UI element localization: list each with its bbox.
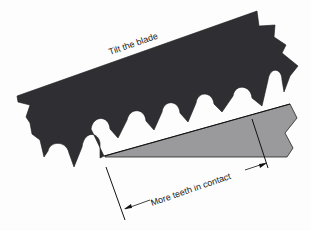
saw-blade-diagram: Tilt the blade More teeth in contact (0, 0, 311, 231)
left-extension-line (106, 167, 125, 220)
dimension-label: More teeth in contact (149, 171, 232, 208)
arrowhead-left-icon (124, 204, 132, 209)
arrowhead-right-icon (259, 163, 267, 168)
diagram-svg: Tilt the blade More teeth in contact (0, 0, 311, 231)
workpiece (105, 104, 297, 157)
